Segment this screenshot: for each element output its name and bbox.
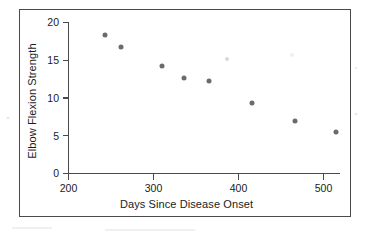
data-point (250, 101, 255, 106)
data-point (206, 79, 211, 84)
scatter-plot-figure: 20 15 10 5 0 200 300 400 500 Days Since … (0, 0, 373, 236)
x-tick-label-400: 400 (219, 182, 259, 194)
scan-speck (12, 228, 52, 229)
data-point (119, 45, 124, 50)
data-point (160, 64, 165, 69)
x-tick-label-200: 200 (49, 182, 89, 194)
scan-speck (105, 230, 195, 231)
x-tick-label-300: 300 (134, 182, 174, 194)
data-point (334, 129, 339, 134)
scan-speck (7, 117, 10, 119)
x-tick-label-500: 500 (304, 182, 344, 194)
data-point (182, 75, 187, 80)
scan-speck (355, 67, 357, 69)
y-axis-label: Elbow Flexion Strength (26, 21, 38, 181)
scan-speck (355, 113, 358, 115)
data-point (103, 32, 108, 37)
data-point (293, 118, 298, 123)
data-point (225, 57, 229, 61)
x-axis-label: Days Since Disease Onset (0, 198, 373, 210)
data-point (290, 53, 294, 57)
